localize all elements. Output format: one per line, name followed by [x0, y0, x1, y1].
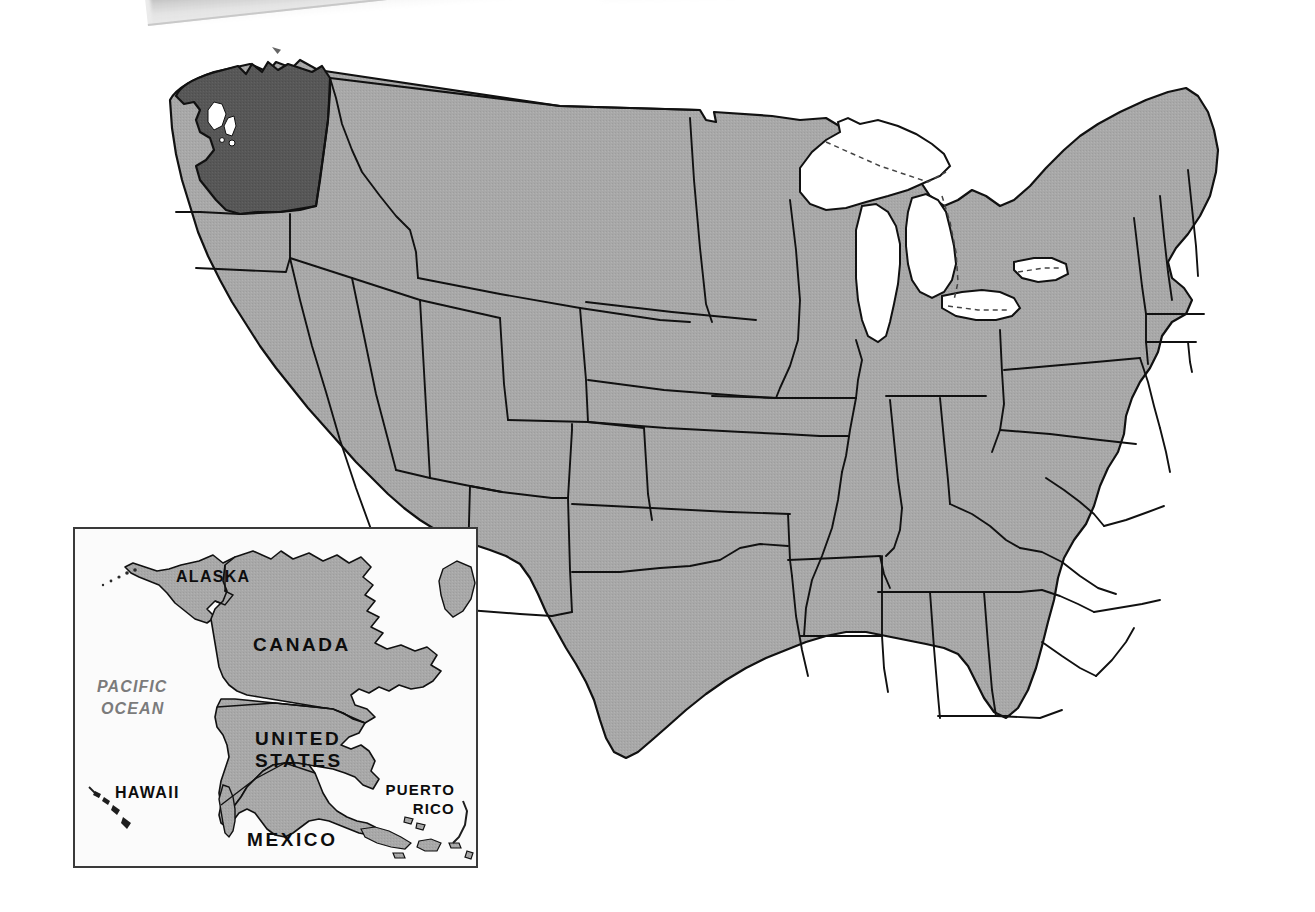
lake-ontario: [1014, 258, 1068, 282]
inset-bahamas-1: [404, 817, 413, 824]
inset-bahamas-2: [416, 823, 425, 830]
boundary-md-va: [1104, 506, 1164, 526]
inset-jamaica: [393, 853, 405, 858]
inset-caribbean-islands: [361, 817, 473, 859]
inset-hispaniola: [417, 839, 441, 851]
north-america-inset[interactable]: ALASKA CANADA PACIFIC OCEAN UNITED STATE…: [73, 527, 478, 868]
inset-greenland: [439, 561, 475, 617]
map-page: ALASKA CANADA PACIFIC OCEAN UNITED STATE…: [0, 0, 1315, 912]
boundary-nc-va: [1094, 600, 1160, 612]
inset-puerto-rico-leader: [453, 801, 467, 843]
boundary-ct-ri: [1188, 342, 1192, 372]
boundary-nc-sc: [1096, 628, 1134, 676]
inset-cuba: [361, 827, 411, 849]
inset-canada: [211, 551, 441, 723]
inset-map-svg: [75, 529, 476, 866]
boundary-la-ms: [882, 636, 888, 692]
lake-erie: [942, 290, 1020, 320]
boundary-ga-sc: [1042, 642, 1096, 676]
boundary-nj-de-md: [1160, 428, 1170, 472]
inset-puerto-rico-island: [449, 843, 461, 848]
inset-lesser-antilles: [465, 851, 473, 859]
